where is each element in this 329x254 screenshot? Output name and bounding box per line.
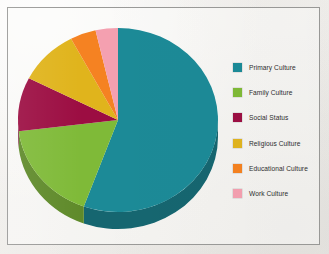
legend-label-educational-culture: Educational Culture — [249, 164, 308, 173]
legend-swatch-primary-culture — [233, 63, 242, 72]
legend-label-work-culture: Work Culture — [249, 189, 288, 198]
legend-item-social-status[interactable]: Social Status — [233, 112, 325, 123]
legend-item-family-culture[interactable]: Family Culture — [233, 87, 325, 98]
legend-swatch-religious-culture — [233, 139, 242, 148]
legend-label-religious-culture: Religious Culture — [249, 139, 300, 148]
pie-chart-svg — [12, 14, 230, 246]
legend-item-work-culture[interactable]: Work Culture — [233, 188, 325, 199]
pie-slices — [18, 28, 218, 212]
legend-item-primary-culture[interactable]: Primary Culture — [233, 62, 325, 73]
screenshot-root: Primary Culture Family Culture Social St… — [0, 0, 329, 254]
legend-label-family-culture: Family Culture — [249, 88, 292, 97]
legend-item-religious-culture[interactable]: Religious Culture — [233, 138, 325, 149]
legend-label-primary-culture: Primary Culture — [249, 63, 296, 72]
legend-swatch-work-culture — [233, 189, 242, 198]
legend-label-social-status: Social Status — [249, 113, 288, 122]
legend-item-educational-culture[interactable]: Educational Culture — [233, 163, 325, 174]
legend-swatch-family-culture — [233, 88, 242, 97]
legend-swatch-social-status — [233, 113, 242, 122]
legend-swatch-educational-culture — [233, 164, 242, 173]
pie-group — [18, 28, 218, 229]
chart-legend: Primary Culture Family Culture Social St… — [233, 62, 325, 213]
